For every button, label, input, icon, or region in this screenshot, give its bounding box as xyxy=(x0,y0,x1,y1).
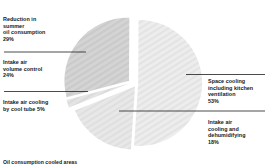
pie-chart-figure: Reduction in summer oil consumption 29% … xyxy=(0,0,269,166)
pie-slice-volume-control xyxy=(64,18,129,98)
pie-label-volume-control-text: Intake air volume control xyxy=(3,59,42,71)
pie-label-reduction-in-summer-oil-consumption: Reduction in summer oil consumption 29% xyxy=(3,10,73,48)
pie-label-cool-tube-text: Intake air cooling by cool tube 5% xyxy=(3,99,48,111)
pie-label-reduction-text: Reduction in summer oil consumption xyxy=(3,16,45,35)
pie-label-space-cooling-text: Space cooling including kitchen ventilat… xyxy=(208,78,253,97)
pie-label-volume-control-value: 24% xyxy=(3,72,73,78)
pie-label-intake-air-cooling-and-dehumidifying: Intake air cooling and dehumidifying 18% xyxy=(208,113,268,151)
chart-caption: Oil consumption cooled areas xyxy=(3,159,143,166)
pie-label-reduction-value: 29% xyxy=(3,36,73,42)
pie-label-dehumidifying-value: 18% xyxy=(208,139,268,145)
pie-label-intake-air-cooling-by-cool-tube: Intake air cooling by cool tube 5% xyxy=(3,93,77,112)
pie-label-intake-air-volume-control: Intake air volume control 24% xyxy=(3,53,73,85)
pie-label-space-cooling-including-kitchen-ventilation: Space cooling including kitchen ventilat… xyxy=(208,72,268,110)
pie-label-space-cooling-value: 53% xyxy=(208,98,268,104)
pie-label-dehumidifying-text: Intake air cooling and dehumidifying xyxy=(208,119,245,138)
pie-slice-space-cooling xyxy=(134,20,202,146)
